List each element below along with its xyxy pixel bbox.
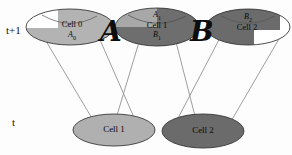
cone-line-b-right [230, 32, 283, 123]
operator-label-b: B [190, 18, 214, 46]
cell-1-top-name: Cell 1 [137, 21, 177, 30]
cell-1-bottom-name: Cell 1 [94, 125, 134, 134]
operator-label-a: A [100, 18, 122, 46]
cell-0-state-sub: 0 [73, 35, 76, 41]
cell-2-top-name: Cell 2 [226, 23, 268, 32]
time-label-t-plus-1: t+1 [6, 24, 21, 36]
cell-1-top-state-sub-lower: 1 [158, 35, 161, 41]
cell-1-top-state-label-lower: B1 [142, 31, 172, 41]
time-label-t: t [12, 116, 15, 128]
cell-0-name: Cell 0 [52, 20, 92, 29]
cell-lineage-diagram: t+1 t A B Cell 0 A0 A1 Cell 1 B1 B2 Cell… [0, 0, 292, 155]
cross-line-to-cell2 [176, 42, 196, 120]
cell-2-bottom-name: Cell 2 [183, 126, 223, 135]
cell-0-state-label: A0 [55, 31, 89, 41]
